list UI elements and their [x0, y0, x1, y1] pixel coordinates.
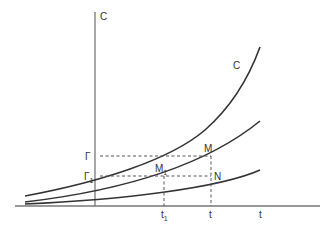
diagram-canvas: C C Γ Γ1 M M1 N t1 t t: [0, 0, 332, 229]
upper-curve: [25, 47, 260, 196]
y-axis-label: C: [100, 11, 107, 22]
gamma-label: Γ: [85, 151, 91, 162]
middle-curve: [25, 121, 260, 202]
point-n-label: N: [214, 171, 221, 182]
lower-curve: [25, 170, 260, 204]
t1-tick-label: t1: [161, 209, 168, 222]
t-tick-label: t: [209, 209, 212, 220]
curve-label-c: C: [233, 60, 240, 71]
point-m-label: M: [204, 143, 212, 154]
x-axis-label: t: [259, 209, 262, 220]
